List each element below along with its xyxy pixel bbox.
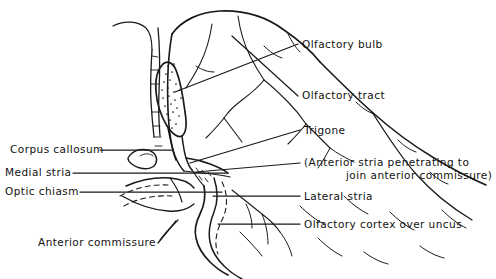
- olfactory-system-figure: Olfactory bulb Olfactory tract Trigone (…: [0, 0, 496, 279]
- corpus-callosum: [128, 149, 157, 168]
- optic-chiasm-upper: [126, 178, 194, 188]
- label-olfactory-tract: Olfactory tract: [302, 89, 385, 102]
- olfactory-bulb-outline: [156, 62, 186, 136]
- sulcus-d: [264, 80, 306, 124]
- optic-chiasm-lower: [122, 196, 194, 211]
- hidden-contour-1: [120, 185, 168, 196]
- label-anterior-commissure: Anterior commissure: [38, 236, 156, 249]
- sulcus-o: [398, 140, 416, 152]
- sulcus-b: [238, 16, 264, 80]
- leader-olfactory-bulb: [175, 44, 298, 92]
- medial-orbital-border: [168, 34, 176, 160]
- label-trigone: Trigone: [304, 124, 345, 137]
- temporal-sulcus-e: [240, 232, 262, 256]
- sulcus-c: [224, 80, 264, 118]
- temporal-sulcus-j: [364, 252, 388, 264]
- label-corpus-callosum: Corpus callosum: [10, 143, 104, 156]
- medial-vertical-edge: [151, 50, 154, 137]
- label-lateral-stria: Lateral stria: [304, 190, 373, 203]
- optic-nerve-edge: [170, 178, 182, 202]
- leader-lines: [73, 36, 300, 243]
- olfactory-tract-lateral: [182, 136, 192, 170]
- label-olfactory-cortex-over-uncus: Olfactory cortex over uncus: [304, 218, 462, 231]
- label-medial-stria: Medial stria: [5, 166, 71, 179]
- medial-frontal-edge: [113, 22, 152, 50]
- temporal-sulcus-d: [280, 232, 292, 256]
- uncus-medial-edge: [195, 186, 228, 275]
- corpus-callosum-inner: [140, 154, 153, 156]
- sulcus-f: [224, 118, 242, 142]
- label-anterior-stria-line2: join anterior commissure): [346, 169, 492, 182]
- frontal-lobe-outline: [172, 11, 320, 62]
- medial-vertical-edge-2: [158, 28, 160, 136]
- temporal-sulcus-g: [318, 238, 342, 256]
- leader-trigone: [190, 130, 300, 163]
- label-olfactory-bulb: Olfactory bulb: [302, 38, 383, 51]
- trigone-lower-border: [184, 171, 230, 177]
- sulcus-a: [186, 24, 212, 88]
- temporal-sulcus-l: [420, 246, 444, 258]
- sulcus-e: [206, 118, 224, 138]
- leader-anterior-commissure: [158, 221, 176, 243]
- label-anterior-stria-line1: (Anterior stria penetrating to: [304, 156, 469, 169]
- label-optic-chiasm: Optic chiasm: [5, 185, 79, 198]
- olfactory-bulb-stipple: [161, 63, 182, 129]
